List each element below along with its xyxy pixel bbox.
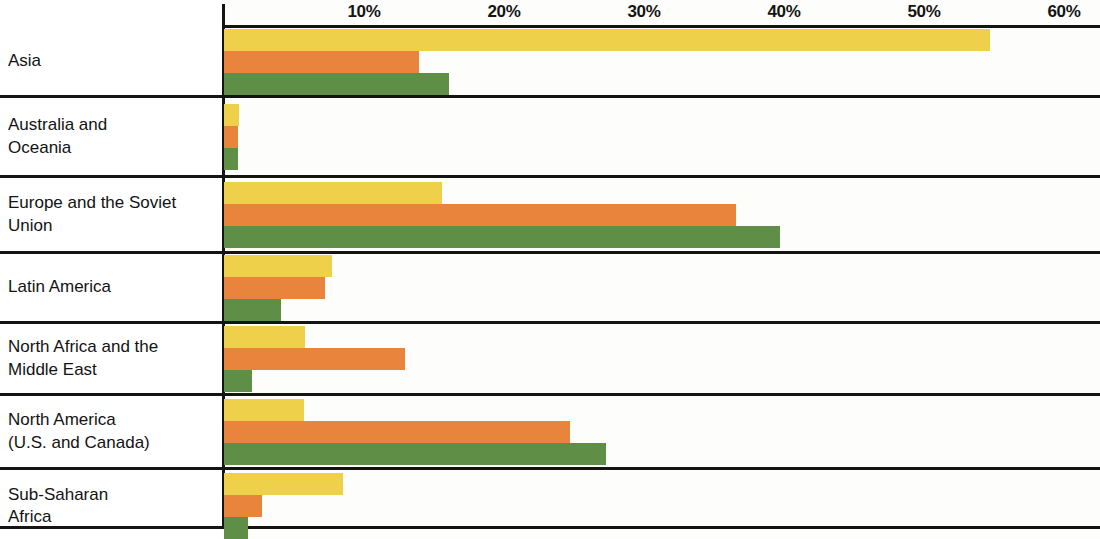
chart-rows: AsiaAustralia and OceaniaEurope and the … (0, 28, 1100, 539)
bar-series-3 (224, 299, 281, 321)
bar-series-3 (224, 73, 449, 95)
bar-series-1 (224, 182, 442, 204)
bar-series-2 (224, 204, 736, 226)
category-label: North America (U.S. and Canada) (8, 396, 218, 467)
bar-series-1 (224, 399, 304, 421)
bar-group (224, 396, 1100, 467)
axis-tick-label-10: 10% (347, 2, 380, 22)
bar-series-2 (224, 495, 262, 517)
axis-tick-label-40: 40% (767, 2, 800, 22)
bar-series-3 (224, 226, 780, 248)
category-label: Australia and Oceania (8, 98, 218, 175)
chart-row: North America (U.S. and Canada) (0, 396, 1100, 470)
category-label: Europe and the Soviet Union (8, 178, 218, 251)
category-label: Asia (8, 28, 218, 95)
bar-chart: 10%20%30%40%50%60% AsiaAustralia and Oce… (0, 0, 1100, 539)
bar-group (224, 324, 1100, 393)
category-label: North Africa and the Middle East (8, 324, 218, 393)
value-axis-header: 10%20%30%40%50%60% (0, 0, 1100, 26)
axis-tick-label-60: 60% (1047, 2, 1080, 22)
bar-group (224, 178, 1100, 251)
bar-series-1 (224, 473, 343, 495)
chart-row: North Africa and the Middle East (0, 324, 1100, 396)
chart-row: Australia and Oceania (0, 98, 1100, 178)
bar-series-2 (224, 277, 325, 299)
category-label: Latin America (8, 254, 218, 321)
bar-series-2 (224, 51, 419, 73)
bar-group (224, 470, 1100, 539)
bar-series-1 (224, 29, 990, 51)
bar-series-1 (224, 255, 332, 277)
bar-series-1 (224, 104, 239, 126)
bar-group (224, 254, 1100, 321)
bar-series-2 (224, 126, 238, 148)
bar-series-2 (224, 348, 405, 370)
bar-series-3 (224, 443, 606, 465)
axis-tick-label-20: 20% (487, 2, 520, 22)
chart-row: Europe and the Soviet Union (0, 178, 1100, 254)
axis-tick-label-30: 30% (627, 2, 660, 22)
bar-series-3 (224, 148, 238, 170)
chart-row: Asia (0, 28, 1100, 98)
bar-series-2 (224, 421, 570, 443)
chart-row: Sub-Saharan Africa (0, 470, 1100, 539)
bar-series-3 (224, 370, 252, 392)
bar-group (224, 98, 1100, 175)
bar-group (224, 28, 1100, 95)
bar-series-1 (224, 326, 305, 348)
category-label: Sub-Saharan Africa (8, 470, 218, 539)
axis-tick-label-50: 50% (907, 2, 940, 22)
chart-row: Latin America (0, 254, 1100, 324)
bar-series-3 (224, 517, 248, 539)
